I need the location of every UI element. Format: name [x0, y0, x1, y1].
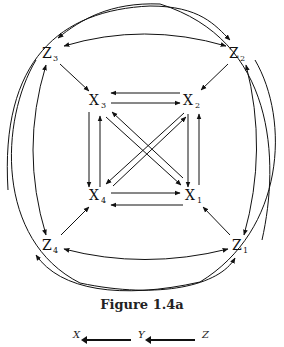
node-x2: X 2	[183, 92, 200, 110]
svg-text:Z: Z	[232, 237, 242, 253]
causal-graph-diagram: Z 3 Z 2 X 3 X 2 X 4 X 1 Z 4 Z 1	[0, 0, 284, 347]
svg-text:1: 1	[197, 196, 202, 205]
svg-text:Z: Z	[42, 45, 52, 61]
label-z: Z	[202, 329, 209, 340]
svg-text:X: X	[183, 92, 193, 108]
svg-text:1: 1	[243, 246, 248, 255]
arrow-z-to-y	[150, 339, 195, 341]
label-x: X	[73, 329, 80, 340]
svg-text:3: 3	[53, 54, 58, 63]
svg-text:3: 3	[101, 101, 106, 110]
svg-text:X: X	[185, 187, 195, 203]
label-y: Y	[138, 329, 145, 340]
svg-text:Z: Z	[229, 45, 239, 61]
node-x3: X 3	[89, 92, 106, 110]
next-figure-partial: X Y Z	[0, 329, 284, 347]
svg-text:4: 4	[101, 196, 106, 205]
svg-text:X: X	[89, 92, 99, 108]
figure-caption: Figure 1.4a	[0, 297, 284, 312]
node-z3: Z 3	[42, 45, 58, 63]
arrow-y-to-x	[86, 339, 131, 341]
svg-text:Z: Z	[42, 237, 52, 253]
z-to-x-edges	[60, 64, 230, 235]
svg-text:4: 4	[53, 246, 58, 255]
node-x1: X 1	[185, 187, 202, 205]
svg-text:X: X	[89, 187, 99, 203]
svg-text:2: 2	[240, 54, 245, 63]
node-z2: Z 2	[229, 45, 245, 63]
svg-text:2: 2	[195, 101, 200, 110]
node-x4: X 4	[89, 187, 106, 205]
node-z4: Z 4	[42, 237, 58, 255]
